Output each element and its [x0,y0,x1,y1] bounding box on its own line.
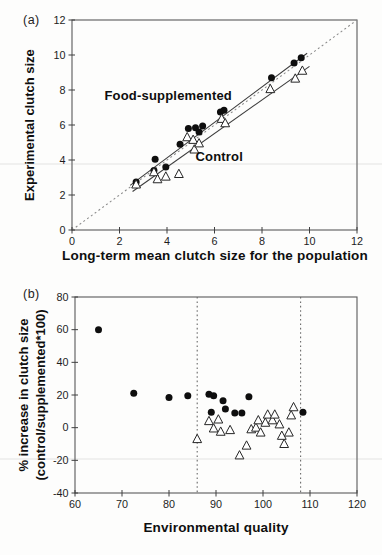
x-tick-label: 120 [348,498,366,510]
point-control-triangle-marker [280,439,289,447]
point-control-triangle-marker [193,434,202,442]
point-control-triangle-marker [289,402,298,410]
point-control-triangle-marker [270,410,279,418]
point-control-triangle-marker [205,416,214,424]
scan-artifact-line [0,458,382,460]
y-tick-label: 40 [56,356,68,368]
point-food-supplemented-circle-marker [238,409,245,416]
y-tick-label: -40 [53,487,69,499]
y-tick-label: 0 [62,421,68,433]
point-control-triangle-marker [254,416,263,424]
x-tick-label: 100 [254,498,272,510]
point-food-supplemented-circle-marker [95,326,102,333]
y-tick-label: 80 [56,291,68,303]
panel-b-chart: 60708090100110120-40-20020406080 [0,0,382,555]
point-control-triangle-marker [242,441,251,449]
point-food-supplemented-circle-marker [222,405,229,412]
y-tick-label: 20 [56,389,68,401]
point-food-supplemented-circle-marker [208,409,215,416]
point-food-supplemented-circle-marker [184,392,191,399]
point-control-triangle-marker [287,411,296,419]
x-tick-label: 110 [301,498,318,510]
point-food-supplemented-circle-marker [130,390,137,397]
x-tick-label: 80 [163,498,175,510]
point-food-supplemented-circle-marker [166,394,173,401]
panel-b-y-axis-title-line1: % increase in clutch size [16,297,31,493]
panel-b-x-axis-title: Environmental quality [75,520,357,535]
x-tick-label: 90 [210,498,222,510]
x-tick-label: 60 [69,498,81,510]
scan-artifact-line [0,163,382,165]
point-food-supplemented-circle-marker [299,409,306,416]
x-tick-label: 70 [116,498,128,510]
point-control-triangle-marker [284,428,293,436]
point-control-triangle-marker [226,425,235,433]
point-food-supplemented-circle-marker [220,397,227,404]
point-food-supplemented-circle-marker [210,392,217,399]
point-food-supplemented-circle-marker [231,409,238,416]
point-food-supplemented-circle-marker [245,393,252,400]
panel-b-y-axis-title-line2: (control/supplemented*100) [33,297,48,493]
y-tick-label: 60 [56,323,68,335]
point-control-triangle-marker [214,415,223,423]
